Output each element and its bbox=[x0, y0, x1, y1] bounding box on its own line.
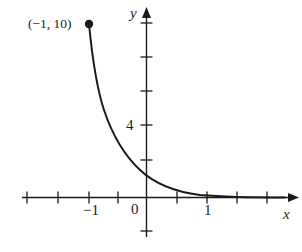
x-tick-label-1: 1 bbox=[204, 203, 212, 218]
origin-label: 0 bbox=[131, 202, 139, 217]
x-axis-label: x bbox=[283, 207, 290, 222]
x-axis-arrowhead bbox=[288, 193, 299, 202]
plot-area bbox=[0, 0, 302, 252]
y-axis bbox=[141, 7, 153, 237]
x-tick-label-neg1: −1 bbox=[83, 203, 99, 218]
y-axis-label: y bbox=[130, 6, 137, 21]
y-axis-arrowhead bbox=[142, 7, 151, 18]
y-tick-label-4: 4 bbox=[126, 118, 134, 133]
exponential-curve bbox=[89, 24, 285, 198]
exponential-decay-graph-figure: (−1, 10) −1 1 0 4 x y bbox=[0, 0, 302, 252]
data-point-marker bbox=[85, 20, 93, 28]
point-annotation-label: (−1, 10) bbox=[28, 17, 72, 31]
